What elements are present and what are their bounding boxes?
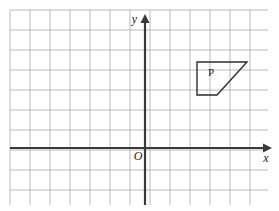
x-axis-label: x <box>262 151 269 165</box>
y-axis-arrowhead <box>141 14 150 23</box>
coordinate-grid-figure: yxOP <box>0 0 279 211</box>
diagram-canvas: yxOP <box>0 0 279 211</box>
origin-label: O <box>134 149 143 163</box>
grid-lines <box>10 10 268 205</box>
y-axis-label: y <box>131 12 138 26</box>
labels-group: yxOP <box>131 12 270 165</box>
shape-label-p: P <box>208 66 214 78</box>
